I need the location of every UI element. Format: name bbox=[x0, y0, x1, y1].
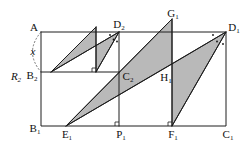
label-D2: D2 bbox=[113, 18, 125, 32]
right-angle-mark-P1 bbox=[115, 122, 119, 126]
label-E1: E1 bbox=[62, 128, 73, 142]
angle-dot-icon bbox=[216, 41, 218, 43]
right-angle-mark-F1 bbox=[168, 122, 172, 126]
label-D1: D1 bbox=[228, 21, 240, 35]
angle-dot-icon bbox=[113, 39, 115, 41]
geometry-figure: A D2 G1 D1 x R2 B2 C2 H1 B1 E1 P1 F1 C1 bbox=[0, 0, 244, 145]
label-B2: B2 bbox=[27, 69, 38, 83]
right-angle-mark-foot bbox=[92, 68, 96, 72]
label-A: A bbox=[30, 21, 38, 33]
angle-dot-icon bbox=[116, 41, 118, 43]
label-R2: R2 bbox=[10, 70, 22, 84]
label-B1: B1 bbox=[30, 122, 41, 136]
label-P1: P1 bbox=[116, 128, 126, 142]
angle-dot-icon bbox=[222, 43, 224, 45]
label-x: x bbox=[30, 45, 36, 57]
angle-dot-icon bbox=[212, 34, 214, 36]
label-C1: C1 bbox=[223, 128, 234, 142]
label-F1: F1 bbox=[168, 128, 178, 142]
label-H1: H1 bbox=[160, 71, 172, 85]
label-G1: G1 bbox=[167, 7, 179, 21]
angle-dot-icon bbox=[109, 34, 111, 36]
